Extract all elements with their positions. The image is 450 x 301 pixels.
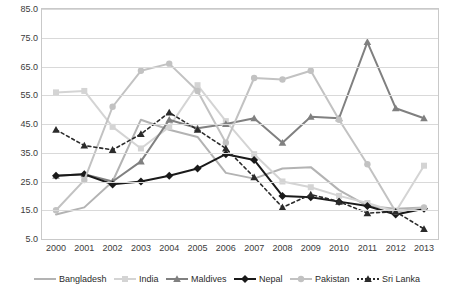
y-axis-tick-label: 75.0 [0,33,38,43]
chart-legend: BangladeshIndiaMaldivesNepalPakistanSri … [30,268,424,290]
legend-marker [363,274,373,284]
data-point-marker [81,88,87,94]
legend-label: Maldives [191,274,227,284]
data-point-marker [122,276,128,282]
line-chart: 5.015.025.035.045.055.065.075.085.020002… [0,0,450,301]
data-point-marker [81,142,89,149]
data-point-marker [421,163,427,169]
data-point-marker [279,76,285,82]
legend-item-pakistan[interactable]: Pakistan [290,274,350,284]
gridline [42,210,438,211]
data-point-marker [307,191,315,198]
data-point-marker [109,104,115,110]
gridline [42,153,438,154]
series-india [53,82,427,215]
data-point-marker [308,68,314,74]
series-line [56,113,424,229]
legend-marker [172,274,182,284]
data-point-marker [241,275,249,283]
y-axis-tick-label: 15.0 [0,205,38,215]
legend-swatch [357,274,379,284]
data-point-marker [165,172,173,180]
data-point-marker [165,109,173,116]
data-point-marker [173,275,181,282]
legend-swatch [34,274,56,284]
gridline [42,124,438,125]
data-point-marker [364,275,372,282]
data-point-marker [420,225,428,232]
gridline [42,95,438,96]
legend-item-maldives[interactable]: Maldives [166,274,227,284]
legend-label: Nepal [259,274,283,284]
legend-item-nepal[interactable]: Nepal [234,274,283,284]
legend-item-india[interactable]: India [114,274,159,284]
plot-area [41,8,439,240]
y-axis-tick-label: 25.0 [0,177,38,187]
data-point-marker [138,145,144,151]
legend-marker [120,274,130,284]
gridline [42,9,438,10]
data-point-marker [298,276,304,282]
legend-marker [240,274,250,284]
gridline [42,67,438,68]
data-point-marker [195,82,201,88]
data-point-marker [392,104,400,111]
legend-swatch [166,274,188,284]
y-axis-tick-label: 45.0 [0,119,38,129]
data-point-marker [165,116,173,123]
legend-item-bangladesh[interactable]: Bangladesh [34,274,107,284]
x-axis-tick-label: 2013 [407,243,441,253]
data-point-marker [336,116,342,122]
legend-item-sri-lanka[interactable]: Sri Lanka [357,274,420,284]
data-point-marker [138,68,144,74]
legend-swatch [114,274,136,284]
data-point-marker [194,165,202,173]
data-point-marker [364,161,370,167]
y-axis-tick-label: 65.0 [0,62,38,72]
data-point-marker [308,184,314,190]
data-point-marker [194,88,200,94]
legend-swatch [234,274,256,284]
gridline [42,38,438,39]
data-point-marker [251,75,257,81]
y-axis-tick-label: 35.0 [0,148,38,158]
y-axis-tick-label: 5.0 [0,234,38,244]
data-point-marker [52,126,60,133]
data-point-marker [364,38,372,45]
legend-label: India [139,274,159,284]
data-point-marker [222,145,230,152]
y-axis-tick-label: 85.0 [0,4,38,14]
legend-label: Pakistan [315,274,350,284]
y-axis-tick-label: 55.0 [0,90,38,100]
gridline [42,182,438,183]
legend-swatch [290,274,312,284]
legend-marker [296,274,306,284]
legend-label: Bangladesh [59,274,107,284]
legend-label: Sri Lanka [382,274,420,284]
